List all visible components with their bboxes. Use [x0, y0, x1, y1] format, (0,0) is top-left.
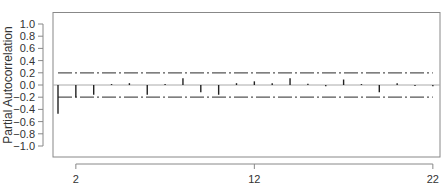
pacf-chart: Partial Autocorrelation 1.00.80.60.40.20…	[0, 0, 446, 191]
y-tick-label: −0.6	[13, 116, 35, 128]
y-tick-label: 0.2	[20, 67, 35, 79]
y-tick-label: −0.8	[13, 128, 35, 140]
x-tick-label: 2	[73, 173, 79, 185]
y-tick-label: −0.4	[13, 103, 35, 115]
pacf-spikes	[58, 78, 433, 113]
y-tick-label: 0.0	[20, 79, 35, 91]
y-axis: 1.00.80.60.40.20.0−0.2−0.4−0.6−0.8−1.0	[13, 18, 43, 152]
y-tick-label: −0.2	[13, 91, 35, 103]
x-tick-label: 12	[248, 173, 260, 185]
y-tick-label: 0.8	[20, 30, 35, 42]
y-tick-label: 0.4	[20, 55, 35, 67]
y-tick-label: 1.0	[20, 18, 35, 30]
x-tick-label: 22	[427, 173, 439, 185]
x-axis: 21222	[73, 164, 439, 185]
y-tick-label: −1.0	[13, 140, 35, 152]
y-tick-label: 0.6	[20, 42, 35, 54]
